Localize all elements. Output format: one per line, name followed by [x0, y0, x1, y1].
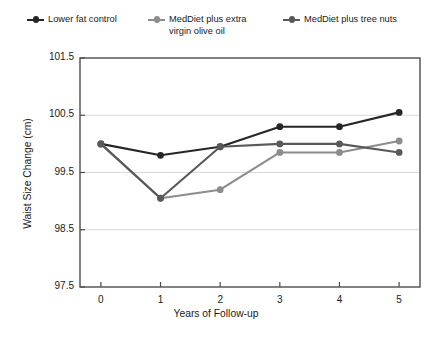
data-point: [276, 140, 283, 147]
data-point: [336, 140, 343, 147]
data-point: [97, 140, 104, 147]
x-tick-label: 4: [327, 294, 351, 305]
y-tick-label: 97.5: [30, 280, 74, 291]
series-line-1: [101, 141, 399, 198]
data-point: [157, 195, 164, 202]
x-tick-label: 5: [387, 294, 411, 305]
chart-figure: Lower fat control MedDiet plus extra vir…: [0, 0, 432, 338]
series-layer: [97, 109, 402, 202]
y-tick-label: 101.5: [30, 51, 74, 62]
x-tick-label: 0: [89, 294, 113, 305]
data-point: [336, 149, 343, 156]
plot-area: 101.5100.599.598.597.5 012345 Years of F…: [0, 0, 432, 338]
data-point: [396, 109, 403, 116]
data-point: [157, 152, 164, 159]
data-point: [217, 186, 224, 193]
y-tick-label: 99.5: [30, 166, 74, 177]
y-tick-label: 98.5: [30, 223, 74, 234]
y-tick-label: 100.5: [30, 108, 74, 119]
data-point: [396, 138, 403, 145]
data-point: [276, 149, 283, 156]
data-point: [396, 149, 403, 156]
data-point: [276, 123, 283, 130]
y-axis-title: Waist Size Change (cm): [22, 84, 33, 264]
data-point: [217, 143, 224, 150]
x-tick-label: 3: [268, 294, 292, 305]
data-point: [336, 123, 343, 130]
x-axis-title: Years of Follow-up: [0, 308, 432, 319]
x-tick-label: 1: [149, 294, 173, 305]
x-tick-label: 2: [208, 294, 232, 305]
